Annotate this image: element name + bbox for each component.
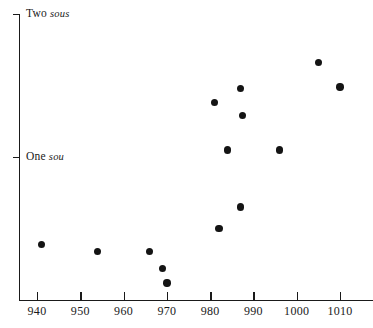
data-point [215, 225, 222, 232]
x-tick-label: 990 [244, 305, 263, 317]
x-tick-mark [340, 292, 341, 300]
data-point [159, 265, 166, 272]
x-tick-label: 1000 [284, 305, 309, 317]
x-tick-mark [80, 292, 81, 300]
y-tick-label-text: Two [26, 7, 50, 19]
x-tick-label: 970 [157, 305, 176, 317]
data-point [239, 112, 246, 119]
data-point [146, 248, 153, 255]
y-tick-mark [13, 157, 20, 158]
data-point [237, 203, 244, 210]
data-point [94, 248, 101, 255]
x-tick-mark [37, 292, 38, 300]
x-tick-mark [253, 292, 254, 300]
data-point [315, 59, 322, 66]
y-tick-label-unit: sous [50, 8, 69, 19]
x-tick-mark [124, 292, 125, 300]
scatter-plot-figure: Two sousOne sou 940950960970980990100010… [0, 0, 373, 328]
x-tick-label: 960 [114, 305, 133, 317]
data-point [336, 83, 343, 90]
x-axis-line [19, 300, 373, 301]
x-tick-label: 940 [28, 305, 47, 317]
x-tick-label: 1010 [327, 305, 352, 317]
data-point [276, 146, 283, 153]
data-point [237, 85, 244, 92]
x-tick-mark [210, 292, 211, 300]
x-tick-mark [167, 292, 168, 300]
y-tick-label: One sou [26, 151, 64, 163]
y-tick-label-unit: sou [49, 151, 64, 162]
y-tick-mark [13, 14, 20, 15]
x-tick-mark [297, 292, 298, 300]
data-point [38, 241, 45, 248]
y-tick-label-text: One [26, 150, 49, 162]
x-tick-label: 980 [201, 305, 220, 317]
data-point [211, 99, 218, 106]
y-tick-label: Two sous [26, 8, 69, 20]
x-tick-label: 950 [71, 305, 90, 317]
data-point [224, 146, 231, 153]
data-point [163, 279, 170, 286]
